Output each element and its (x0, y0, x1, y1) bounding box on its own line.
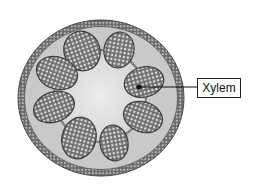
xylem-label: Xylem (197, 78, 241, 98)
xylem-label-text: Xylem (202, 81, 235, 95)
stem-cross-section-diagram: Xylem (0, 0, 256, 190)
